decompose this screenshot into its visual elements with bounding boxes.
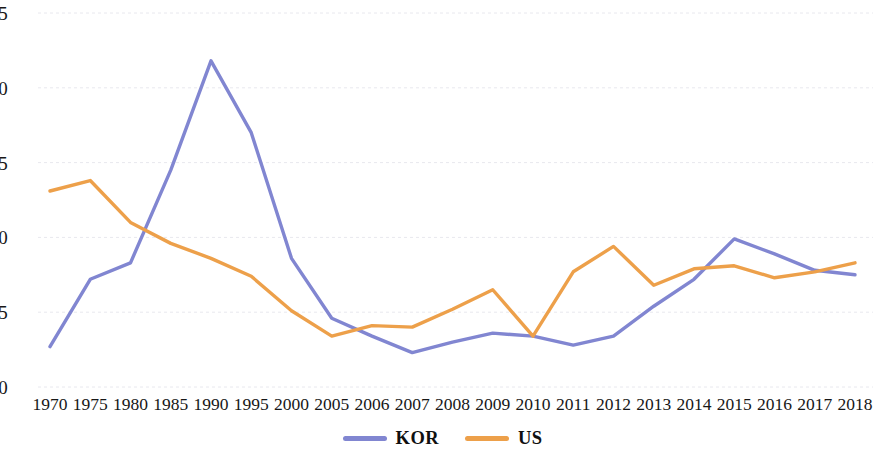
x-tick-label: 2016 — [757, 393, 792, 416]
x-tick-label: 2013 — [636, 393, 671, 416]
x-tick-label: 2018 — [838, 393, 873, 416]
legend-item-kor: KOR — [343, 428, 439, 449]
x-tick-label: 2009 — [475, 393, 510, 416]
x-tick-label: 2012 — [596, 393, 631, 416]
legend-swatch-us — [465, 436, 509, 441]
x-tick-label: 2017 — [797, 393, 832, 416]
x-tick-label: 1980 — [113, 393, 148, 416]
x-tick-label: 1995 — [234, 393, 269, 416]
x-tick-label: 1970 — [33, 393, 68, 416]
x-tick-label: 1990 — [194, 393, 229, 416]
x-tick-label: 2011 — [556, 393, 590, 416]
legend-swatch-kor — [343, 436, 387, 441]
chart-legend: KOR US — [0, 428, 885, 449]
legend-label-kor: KOR — [396, 428, 439, 449]
chart-canvas — [0, 0, 885, 456]
x-tick-label: 1975 — [73, 393, 108, 416]
x-tick-label: 1985 — [153, 393, 188, 416]
x-tick-label: 2015 — [717, 393, 752, 416]
x-tick-label: 2008 — [435, 393, 470, 416]
gridlines — [38, 13, 873, 387]
x-tick-label: 2000 — [274, 393, 309, 416]
legend-item-us: US — [465, 428, 542, 449]
legend-label-us: US — [518, 428, 542, 449]
x-tick-label: 2007 — [395, 393, 430, 416]
line-chart: 0510152025 19701975198019851990199520002… — [0, 0, 885, 456]
x-tick-label: 2014 — [677, 393, 712, 416]
x-tick-label: 2006 — [355, 393, 390, 416]
x-axis: 1970197519801985199019952000200520062007… — [30, 393, 873, 421]
series-paths — [50, 61, 855, 353]
series-line-us — [50, 181, 855, 337]
x-tick-label: 2010 — [516, 393, 551, 416]
x-tick-label: 2005 — [314, 393, 349, 416]
